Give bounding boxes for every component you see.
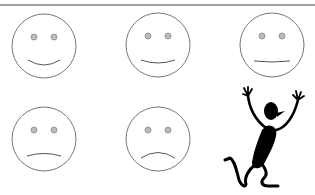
pain-scale-canvas	[0, 0, 315, 195]
face-very-happy-icon	[12, 14, 76, 78]
jumping-figure-icon	[225, 87, 304, 186]
face-sad-icon	[126, 107, 190, 171]
face-slightly-happy-icon	[126, 13, 190, 77]
face-slightly-sad-icon	[12, 107, 76, 171]
face-neutral-icon	[240, 13, 304, 77]
